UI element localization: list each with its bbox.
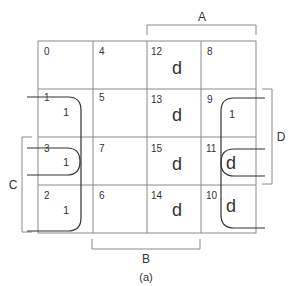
cell-index: 11 [206,143,217,154]
cell-value: d [172,58,182,78]
loop-left-outer [27,97,81,231]
bracket-b [92,239,200,249]
kmap-grid [38,41,256,233]
cell-index: 13 [151,94,163,105]
label-c: C [9,178,18,192]
cell-index: 0 [44,46,50,57]
cell-index: 9 [207,94,213,105]
cell-value: d [226,153,236,173]
kmap-row: 3 1 7 15 d 11 d [44,143,236,174]
karnaugh-map: A B C D 0 4 12 d 8 1 1 5 13 d 9 1 3 1 7 … [0,0,294,286]
bracket-c [22,137,32,232]
loop-left-inner [27,148,80,175]
label-b: B [142,252,150,266]
cell-value: 1 [229,108,235,120]
cell-index: 7 [99,143,105,154]
bracket-d [262,89,272,184]
kmap-row: 2 1 6 14 d 10 d [44,190,236,220]
cell-value: d [172,105,182,125]
cell-index: 14 [151,190,163,201]
cell-index: 10 [206,190,218,201]
label-d: D [277,130,286,144]
cell-value: d [172,154,182,174]
cell-index: 5 [99,92,105,103]
cell-value: 1 [63,106,69,118]
bracket-a [147,25,256,35]
cell-value: 1 [63,204,69,216]
cell-index: 1 [44,92,50,103]
cell-index: 12 [151,46,163,57]
kmap-row: 0 4 12 d 8 [44,46,213,78]
cell-index: 3 [44,143,50,154]
cell-index: 2 [44,190,50,201]
cell-value: d [226,196,236,216]
cell-index: 8 [207,46,213,57]
cell-value: d [172,200,182,220]
cell-index: 6 [99,190,105,201]
cell-index: 4 [99,46,105,57]
cell-value: 1 [63,156,69,168]
figure-caption: (a) [139,271,152,283]
cell-index: 15 [151,143,163,154]
label-a: A [198,10,206,24]
